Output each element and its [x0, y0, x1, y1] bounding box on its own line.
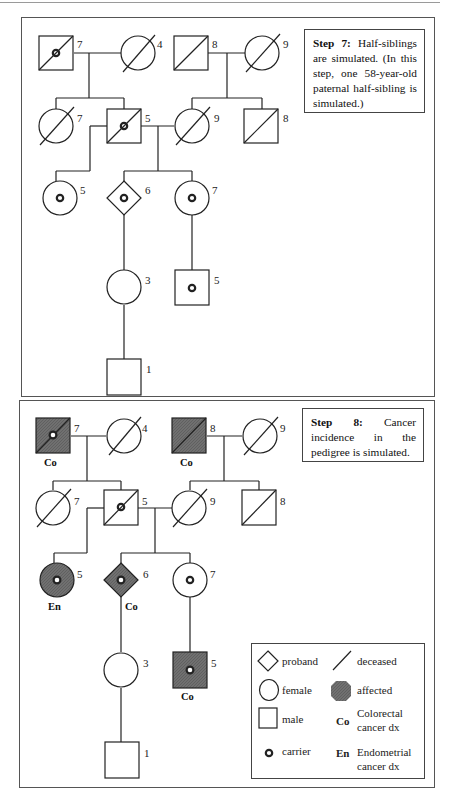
half-sibling-affected-symbol	[40, 563, 74, 597]
paternal-aunt-symbol	[39, 107, 74, 145]
legend-co-abbr: Co	[336, 715, 349, 728]
sister-symbol	[173, 563, 207, 597]
legend-affected-label: affected	[357, 684, 392, 697]
legend-male-label: male	[282, 713, 303, 726]
age-mgf: 8	[210, 422, 216, 434]
daughter-symbol	[107, 270, 141, 304]
dx-nephew: Co	[181, 691, 194, 702]
legend-en-label-2: cancer dx	[357, 760, 399, 773]
step7-description-box: Step 7: Half-siblings are simulated. (In…	[304, 29, 425, 113]
age-pgm: 4	[142, 422, 148, 434]
deceased-legend-icon	[333, 651, 351, 670]
age-mother: 9	[210, 495, 216, 507]
age-sister: 7	[210, 568, 216, 580]
maternal-uncle-symbol	[244, 109, 278, 143]
age-grandson: 1	[146, 363, 152, 375]
nephew-symbol	[175, 270, 209, 305]
dx-halfsib: En	[48, 601, 61, 612]
legend-co-label-1: Colorectal	[357, 707, 403, 720]
age-grandson: 1	[144, 747, 150, 759]
mother-symbol	[175, 107, 210, 145]
mgf-symbol	[174, 36, 208, 70]
mgf-affected-symbol	[172, 418, 206, 453]
age-daughter: 3	[145, 274, 151, 286]
legend-en-label-1: Endometrial	[357, 746, 411, 759]
proband-symbol	[107, 181, 141, 215]
female-legend-icon	[260, 680, 279, 701]
age-mother: 9	[214, 112, 220, 124]
age-pgm: 4	[157, 38, 163, 50]
paternal-aunt-symbol	[36, 489, 71, 527]
grandson-symbol	[105, 742, 139, 778]
age-halfsib: 5	[80, 184, 86, 196]
legend-female-label: female	[282, 684, 312, 697]
age-pgf: 7	[77, 38, 83, 50]
proband-affected-symbol	[104, 563, 138, 597]
half-sibling-symbol	[43, 181, 77, 215]
mother-symbol	[172, 489, 207, 527]
mgm-symbol	[243, 417, 278, 455]
age-nephew: 5	[211, 657, 217, 669]
age-pgf: 7	[74, 422, 80, 434]
carrier-legend-icon	[266, 750, 272, 756]
legend-carrier-label: carrier	[282, 745, 311, 758]
dx-proband: Co	[125, 601, 138, 612]
step8-description-box: Step 8: Cancer incidence in the pedigree…	[302, 408, 424, 462]
dx-mgf: Co	[180, 457, 193, 468]
affected-legend-icon	[331, 681, 351, 701]
age-proband: 6	[145, 184, 151, 196]
step7-title: Step 7:	[313, 37, 351, 49]
age-daughter: 3	[143, 657, 149, 669]
age-muncle: 8	[280, 495, 286, 507]
pgf-symbol	[39, 36, 73, 70]
legend-box: proband deceased female affected male Co…	[251, 643, 425, 779]
male-legend-icon	[259, 708, 277, 728]
age-paunt: 7	[74, 495, 80, 507]
age-muncle: 8	[283, 112, 289, 124]
pgm-symbol	[121, 35, 155, 72]
age-nephew: 5	[214, 274, 220, 286]
pgf-affected-symbol	[36, 418, 70, 453]
age-sister: 7	[212, 184, 218, 196]
proband-legend-icon	[258, 651, 278, 671]
age-mgf: 8	[212, 38, 218, 50]
father-symbol	[107, 109, 141, 143]
pgm-symbol	[107, 417, 141, 455]
legend-co-label-2: cancer dx	[357, 721, 399, 734]
legend-proband-label: proband	[282, 655, 318, 668]
dx-pgf: Co	[44, 457, 57, 468]
age-paunt: 7	[77, 112, 83, 124]
maternal-uncle-symbol	[242, 490, 276, 525]
sister-symbol	[175, 181, 209, 215]
age-father: 5	[142, 495, 148, 507]
grandson-symbol	[107, 359, 141, 395]
daughter-symbol	[104, 653, 138, 687]
age-halfsib: 5	[77, 568, 83, 580]
age-mgm: 9	[283, 38, 289, 50]
age-proband: 6	[143, 568, 149, 580]
step8-pedigree-panel: 7 4 8 9 7 5 9 8 5 6 7 3 5 1 Co Co En Co …	[19, 400, 435, 788]
step7-pedigree-panel: 7 4 8 9 7 5 9 8 5 6 7 3 5 1 Step 7: Half…	[21, 17, 435, 397]
mgm-symbol	[245, 34, 280, 72]
legend-en-abbr: En	[336, 747, 349, 760]
legend-deceased-label: deceased	[357, 655, 397, 668]
age-father: 5	[145, 112, 151, 124]
step8-title: Step 8:	[311, 416, 363, 428]
father-symbol	[104, 490, 138, 525]
page-top-rule	[0, 2, 440, 3]
age-mgm: 9	[280, 422, 286, 434]
nephew-affected-symbol	[173, 652, 207, 688]
